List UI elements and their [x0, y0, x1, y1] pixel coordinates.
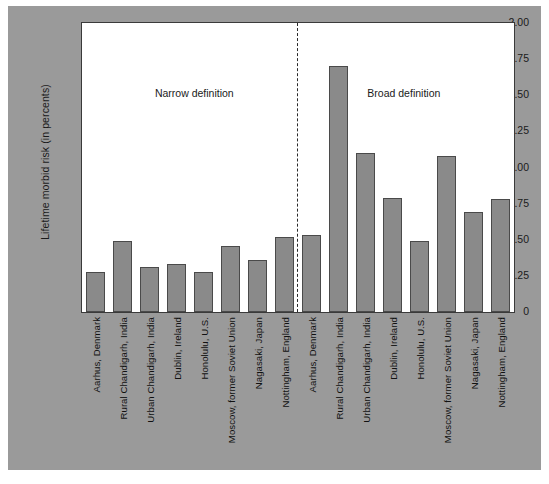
- x-axis-tick-label: Nottingham, England: [496, 317, 507, 408]
- bar: [383, 198, 402, 312]
- x-axis-tick-label: Nagasaki, Japan: [469, 317, 480, 389]
- bar: [221, 246, 240, 312]
- bar: [248, 260, 267, 312]
- bar: [356, 153, 375, 312]
- plot-area: Narrow definitionBroad definition: [81, 22, 515, 313]
- x-axis-tick-label: Urban Chandigarh, India: [361, 317, 372, 423]
- x-axis-tick-label: Aarhus, Denmark: [91, 317, 102, 392]
- bar: [491, 199, 510, 312]
- x-axis-tick-label: Nagasaki, Japan: [253, 317, 264, 389]
- x-axis-tick-label: Nottingham, England: [280, 317, 291, 408]
- group-annotation: Narrow definition: [155, 87, 234, 99]
- bar: [194, 272, 213, 312]
- x-axis-tick-label: Urban Chandigarh, India: [145, 317, 156, 423]
- bar: [329, 66, 348, 312]
- bar: [437, 156, 456, 312]
- x-axis-tick-label: Dublin, Ireland: [388, 317, 399, 380]
- bar: [86, 272, 105, 312]
- x-axis-tick-label: Rural Chandigarh, India: [118, 317, 129, 419]
- bar: [275, 237, 294, 312]
- x-axis-tick-label: Rural Chandigarh, India: [334, 317, 345, 419]
- x-axis-tick-label: Moscow, former Soviet Union: [442, 317, 453, 443]
- bar: [167, 264, 186, 312]
- bar: [113, 241, 132, 312]
- x-axis-tick-label: Moscow, former Soviet Union: [226, 317, 237, 443]
- x-axis-tick-label: Dublin, Ireland: [172, 317, 183, 380]
- figure-panel: Lifetime morbid risk (in percents) 0.25.…: [8, 6, 541, 470]
- x-axis-tick-label: Honolulu, U.S.: [415, 317, 426, 380]
- bar: [464, 212, 483, 312]
- bar: [302, 235, 321, 312]
- x-axis-tick-label: Honolulu, U.S.: [199, 317, 210, 380]
- group-annotation: Broad definition: [367, 87, 440, 99]
- bar: [140, 267, 159, 312]
- x-axis-tick-label: Aarhus, Denmark: [307, 317, 318, 392]
- group-divider-line: [297, 23, 298, 312]
- bar: [410, 241, 429, 312]
- y-axis-label: Lifetime morbid risk (in percents): [39, 47, 51, 277]
